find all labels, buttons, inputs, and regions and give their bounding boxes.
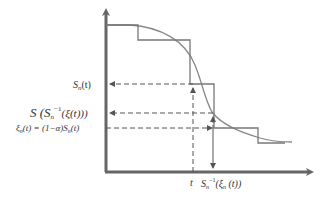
label-sn-inv-xi: Sn−1(ξn (t)) [201, 177, 242, 190]
label-sn-t: Sn(t) [73, 79, 91, 92]
label-t: t [190, 177, 193, 188]
label-xi-equation: ξn(t) = (1−α)Sn(t) [16, 123, 79, 134]
survival-function-diagram: Sn(t) S (Sn−1(ξ(t))) ξn(t) = (1−α)Sn(t) … [0, 0, 330, 199]
label-s-sinv-xi: S (Sn−1(ξ(t))) [30, 105, 88, 121]
